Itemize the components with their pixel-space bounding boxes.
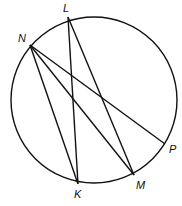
label-point-m: M bbox=[136, 179, 146, 191]
label-point-n: N bbox=[18, 32, 26, 44]
chords bbox=[30, 17, 165, 184]
label-point-l: L bbox=[63, 2, 69, 14]
label-point-k: K bbox=[74, 188, 82, 200]
chord-lm bbox=[68, 17, 134, 175]
circle-chord-diagram: LNPMK bbox=[0, 0, 182, 206]
point-labels: LNPMK bbox=[18, 2, 177, 200]
circle bbox=[11, 17, 177, 183]
label-point-p: P bbox=[169, 143, 177, 155]
